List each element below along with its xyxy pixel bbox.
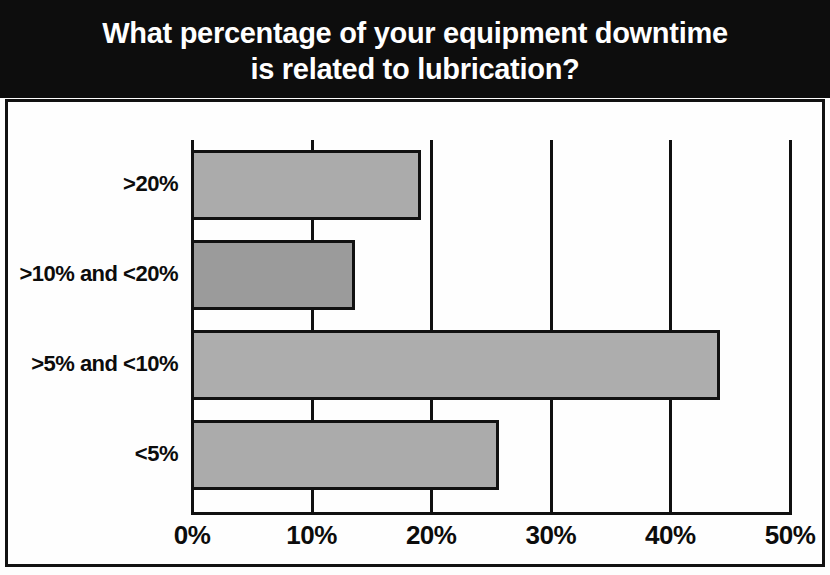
bar-1 <box>191 150 421 220</box>
x-tick-label-1: 10% <box>267 520 357 551</box>
x-axis-line <box>191 512 792 515</box>
chart-title-line-2: is related to lubrication? <box>251 51 580 87</box>
chart-title-line-1: What percentage of your equipment downti… <box>102 15 727 51</box>
x-tick-label-5: 50% <box>745 520 830 551</box>
bar-4 <box>191 420 499 490</box>
x-tick-label-0: 0% <box>147 520 237 551</box>
chart-title-banner: What percentage of your equipment downti… <box>0 0 830 98</box>
category-label-1: >20% <box>0 171 178 197</box>
gridline-50pct <box>789 140 792 512</box>
gridline-30pct <box>550 140 553 512</box>
x-tick-label-3: 30% <box>506 520 596 551</box>
category-label-2: >10% and <20% <box>0 261 178 287</box>
bar-2 <box>191 240 355 310</box>
gridline-40pct <box>669 140 672 512</box>
category-label-4: <5% <box>0 441 178 467</box>
chart-figure: What percentage of your equipment downti… <box>0 0 830 575</box>
x-tick-label-4: 40% <box>625 520 715 551</box>
x-tick-label-2: 20% <box>386 520 476 551</box>
category-label-3: >5% and <10% <box>0 351 178 377</box>
bar-3 <box>191 330 720 400</box>
